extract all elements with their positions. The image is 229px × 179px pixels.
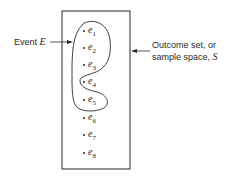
element-e3: e3 [83,59,96,73]
bullet-icon [83,99,85,101]
bullet-icon [83,47,85,49]
event-label-text: Event [14,37,40,47]
element-e2: e2 [83,42,96,56]
bullet-icon [83,152,85,154]
sample-space-label-line1: Outcome set, or [152,40,218,51]
element-e6: e6 [83,112,96,126]
sample-space-symbol: S [213,51,218,62]
event-label: Event E [14,36,46,48]
element-e4: e4 [83,76,96,90]
sample-space-arrowhead-icon [131,49,137,53]
sample-space-label: Outcome set, or sample space, S [152,40,218,63]
element-e7: e7 [83,129,96,143]
event-symbol: E [40,36,46,47]
bullet-icon [83,134,85,136]
bullet-icon [83,117,85,119]
bullet-icon [83,64,85,66]
bullet-icon [83,30,85,32]
element-e8: e8 [83,147,96,161]
bullet-icon [83,81,85,83]
element-e1: e1 [83,25,96,39]
diagram-canvas [0,0,229,179]
element-e5: e5 [83,94,96,108]
sample-space-label-line2: sample space, [152,52,213,62]
event-arrowhead-icon [67,40,73,44]
